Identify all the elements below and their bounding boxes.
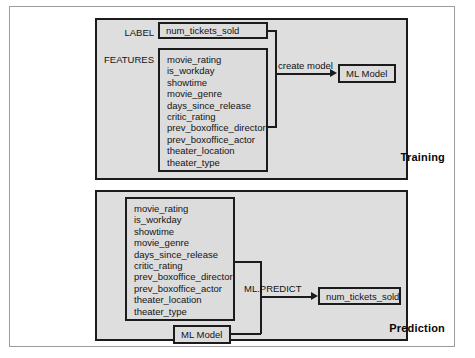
- training-arrow-line: [275, 73, 333, 75]
- feature-item: showtime: [134, 226, 226, 237]
- feature-item: theater_type: [134, 306, 226, 317]
- training-ml-model-box: ML Model: [338, 64, 396, 83]
- features-row-tag: FEATURES: [95, 54, 154, 65]
- feature-item: movie_rating: [134, 203, 226, 214]
- feature-item: theater_type: [167, 157, 259, 168]
- feature-item: prev_boxoffice_actor: [134, 283, 226, 294]
- feature-item: critic_rating: [167, 111, 259, 122]
- feature-item: is_workday: [167, 65, 259, 76]
- prediction-panel-title: Prediction: [389, 322, 445, 342]
- training-features-box: movie_rating is_workday showtime movie_g…: [158, 48, 268, 172]
- prediction-bracket-bottom-connector: [230, 333, 261, 335]
- prediction-arrow-line: [260, 296, 314, 298]
- ml-predict-label: ML.PREDICT: [244, 283, 302, 294]
- figure-frame: LABEL num_tickets_sold FEATURES movie_ra…: [9, 6, 455, 347]
- feature-item: movie_genre: [167, 88, 259, 99]
- feature-item: critic_rating: [134, 260, 226, 271]
- create-model-label: create model: [278, 60, 333, 71]
- training-label-box: num_tickets_sold: [158, 22, 268, 39]
- feature-item: theater_location: [167, 145, 259, 156]
- training-bracket-bottom-connector: [267, 126, 277, 128]
- feature-item: movie_genre: [134, 237, 226, 248]
- feature-item: theater_location: [134, 294, 226, 305]
- feature-item: days_since_release: [167, 100, 259, 111]
- label-row-tag: LABEL: [104, 27, 154, 38]
- prediction-arrowhead-icon: [311, 292, 318, 300]
- feature-item: prev_boxoffice_director: [167, 122, 259, 133]
- feature-item: is_workday: [134, 214, 226, 225]
- prediction-bracket-top-connector: [234, 261, 261, 263]
- prediction-bracket-spine: [260, 261, 262, 334]
- feature-item: movie_rating: [167, 54, 259, 65]
- feature-item: showtime: [167, 77, 259, 88]
- prediction-ml-model-box: ML Model: [173, 325, 231, 344]
- feature-item: prev_boxoffice_director: [134, 271, 226, 282]
- prediction-output-box: num_tickets_sold: [318, 287, 401, 305]
- feature-item: prev_boxoffice_actor: [167, 134, 259, 145]
- feature-item: days_since_release: [134, 249, 226, 260]
- prediction-features-box: movie_rating is_workday showtime movie_g…: [125, 197, 235, 321]
- training-bracket-spine: [275, 30, 277, 127]
